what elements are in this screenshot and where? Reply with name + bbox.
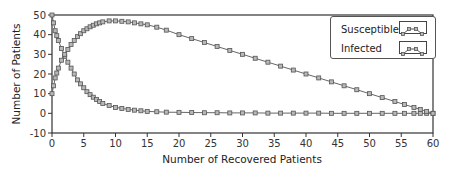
data-point-marker: [266, 111, 270, 115]
y-tick-label: 50: [33, 10, 46, 21]
x-tick-label: 20: [173, 138, 186, 149]
data-point-marker: [402, 111, 406, 115]
data-point-marker: [133, 21, 137, 25]
data-point-marker: [56, 39, 60, 43]
data-point-marker: [368, 111, 372, 115]
data-point-marker: [52, 21, 56, 25]
x-tick-label: 10: [109, 138, 122, 149]
legend-label: Infected: [341, 43, 399, 54]
data-point-marker: [355, 88, 359, 92]
data-point-marker: [190, 111, 194, 115]
data-point-marker: [317, 76, 321, 80]
data-point-marker: [52, 84, 56, 88]
x-tick-label: 25: [204, 138, 217, 149]
data-point-marker: [291, 68, 295, 72]
data-point-marker: [55, 71, 59, 75]
x-tick-label: 30: [236, 138, 249, 149]
legend-item-susceptible: Susceptible: [341, 22, 399, 36]
data-point-marker: [114, 19, 118, 23]
data-point-marker: [145, 109, 149, 113]
data-point-marker: [145, 23, 149, 27]
data-point-marker: [425, 109, 429, 113]
data-point-marker: [69, 66, 73, 70]
data-point-marker: [431, 111, 435, 115]
y-axis-title: Number of Patients: [10, 23, 22, 124]
data-point-marker: [56, 66, 60, 70]
data-point-marker: [66, 47, 70, 51]
data-point-marker: [402, 102, 406, 106]
data-point-marker: [329, 111, 333, 115]
data-point-marker: [50, 13, 54, 17]
data-point-marker: [72, 72, 76, 76]
legend: Susceptible Infected: [330, 16, 436, 59]
x-tick-label: 50: [363, 138, 376, 149]
x-axis-title: Number of Recovered Patients: [162, 153, 322, 165]
x-tick-label: 5: [81, 138, 87, 149]
data-point-marker: [69, 43, 73, 47]
data-point-marker: [202, 41, 206, 45]
legend-item-infected: Infected: [341, 41, 399, 55]
data-point-marker: [190, 37, 194, 41]
data-point-marker: [215, 111, 219, 115]
data-point-marker: [228, 111, 232, 115]
y-tick-label: -10: [30, 128, 46, 139]
data-point-marker: [329, 80, 333, 84]
data-point-marker: [291, 111, 295, 115]
data-point-marker: [412, 105, 416, 109]
data-point-marker: [164, 110, 168, 114]
data-point-marker: [101, 20, 105, 24]
data-point-marker: [418, 107, 422, 111]
x-tick-label: 35: [268, 138, 281, 149]
data-point-marker: [355, 111, 359, 115]
y-tick-label: 40: [33, 29, 46, 40]
data-point-marker: [75, 78, 79, 82]
data-point-marker: [126, 20, 130, 24]
data-point-marker: [50, 92, 54, 96]
y-tick-label: 10: [33, 88, 46, 99]
data-point-marker: [393, 111, 397, 115]
data-point-marker: [60, 58, 64, 62]
data-point-marker: [53, 76, 57, 80]
data-point-marker: [317, 111, 321, 115]
y-axis: -1001020304050: [30, 10, 52, 139]
data-point-marker: [393, 100, 397, 104]
y-tick-label: 20: [33, 69, 46, 80]
data-point-marker: [202, 111, 206, 115]
y-tick-label: 0: [40, 108, 46, 119]
data-point-marker: [82, 86, 86, 90]
data-point-marker: [266, 60, 270, 64]
data-point-marker: [304, 72, 308, 76]
x-tick-label: 40: [300, 138, 313, 149]
y-tick-label: 30: [33, 49, 46, 60]
line-with-square-markers-icon: [399, 21, 427, 34]
data-point-marker: [107, 19, 111, 23]
data-point-marker: [418, 111, 422, 115]
data-point-marker: [228, 48, 232, 52]
data-point-marker: [380, 96, 384, 100]
data-point-marker: [66, 60, 70, 64]
data-point-marker: [72, 39, 76, 43]
x-tick-label: 0: [49, 138, 55, 149]
data-point-marker: [215, 44, 219, 48]
x-tick-label: 55: [395, 138, 408, 149]
data-point-marker: [133, 108, 137, 112]
data-point-marker: [368, 92, 372, 96]
data-point-marker: [120, 19, 124, 23]
data-point-marker: [155, 25, 159, 29]
data-point-marker: [126, 107, 130, 111]
data-point-marker: [79, 82, 83, 86]
data-point-marker: [241, 111, 245, 115]
data-point-marker: [139, 22, 143, 26]
x-axis: 051015202530354045505560: [49, 133, 440, 149]
data-point-marker: [253, 56, 257, 60]
data-point-marker: [177, 33, 181, 37]
data-point-marker: [120, 106, 124, 110]
data-point-marker: [380, 111, 384, 115]
data-point-marker: [53, 29, 57, 33]
x-tick-label: 60: [427, 138, 440, 149]
data-point-marker: [114, 105, 118, 109]
data-point-marker: [177, 110, 181, 114]
data-point-marker: [304, 111, 308, 115]
x-tick-label: 15: [141, 138, 154, 149]
data-point-marker: [101, 102, 105, 106]
